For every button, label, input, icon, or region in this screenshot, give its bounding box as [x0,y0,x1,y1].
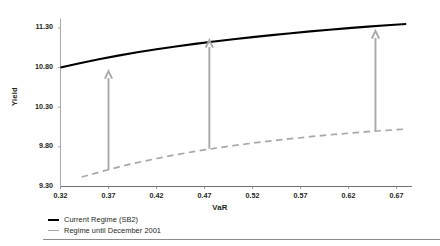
annotation-arrow-2 [372,31,379,131]
legend-item-previous-regime: Regime until December 2001 [47,225,297,236]
legend-item-label: Regime until December 2001 [61,226,161,235]
legend-item-current-regime: Current Regime (SB2) [47,214,297,225]
annotation-arrow-1 [206,40,213,149]
series-line-0 [61,24,407,68]
legend-solid-line-icon [47,214,61,225]
legend-dashed-line-icon [47,225,61,236]
plot-area [0,0,440,246]
footer-divider [43,239,440,240]
legend: Current Regime (SB2) Regime until Decemb… [47,214,297,236]
annotation-arrow-0 [105,71,112,170]
legend-item-label: Current Regime (SB2) [61,215,138,224]
series-line-1 [82,129,407,177]
chart-figure: Yield VaR 9.309.8010.3010.8011.30 0.320.… [0,0,440,246]
